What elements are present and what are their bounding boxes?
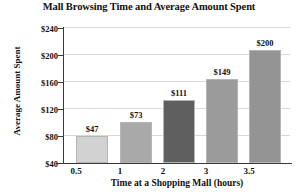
bar-0[interactable] [76, 136, 108, 163]
bar-value-2: $111 [155, 88, 203, 98]
bar-value-0: $47 [68, 124, 116, 134]
y-tick-label-240: $240 [24, 24, 58, 34]
y-tick-label-80: $80 [24, 132, 58, 142]
bar-value-4: $200 [241, 38, 289, 48]
gridline-240 [64, 27, 290, 28]
x-tick-label-0: 0.5 [52, 166, 100, 176]
plot-area: $47 $73 $111 $149 $200 [64, 27, 290, 163]
x-tick-label-2: 2 [139, 166, 187, 176]
bar-3[interactable] [206, 79, 238, 163]
x-axis-line [56, 163, 292, 164]
y-axis-line [63, 27, 64, 164]
bar-4[interactable] [249, 50, 281, 163]
y-tick-label-200: $200 [24, 51, 58, 61]
bar-value-3: $149 [198, 67, 246, 77]
x-tick-label-3: 3 [182, 166, 230, 176]
x-axis-title: Time at a Shopping Mall (hours) [64, 178, 290, 188]
y-tick-label-120: $120 [24, 105, 58, 115]
y-tick-label-160: $160 [24, 78, 58, 88]
x-tick-label-1: 1 [96, 166, 144, 176]
bar-1[interactable] [120, 122, 152, 163]
x-tick-label-4: 3.5 [225, 166, 273, 176]
y-axis-tick-labels: $240 $200 $160 $120 $80 $40 [20, 0, 58, 192]
bar-chart: Mall Browsing Time and Average Amount Sp… [0, 0, 298, 192]
bar-value-1: $73 [112, 110, 160, 120]
bar-2[interactable] [163, 100, 195, 163]
